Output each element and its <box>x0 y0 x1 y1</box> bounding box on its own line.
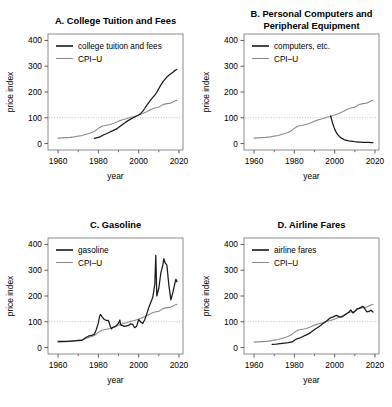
y-tick-label: 300 <box>28 61 42 71</box>
x-tick-label: 1960 <box>49 156 68 166</box>
legend-label: college tuition and fees <box>78 42 162 51</box>
panel-title: C. Gasoline <box>90 220 141 230</box>
y-tick-label: 200 <box>28 87 42 97</box>
x-axis-label: year <box>303 171 320 181</box>
legend-label: CPI–U <box>274 55 298 64</box>
series-line <box>58 304 177 342</box>
y-tick-label: 400 <box>224 35 238 45</box>
panel-title: B. Personal Computers and <box>251 9 373 19</box>
y-tick-label: 400 <box>28 239 42 249</box>
y-tick-label: 0 <box>37 139 42 149</box>
x-tick-label: 2000 <box>325 360 344 370</box>
x-tick-label: 2000 <box>325 156 344 166</box>
y-axis-label: price index <box>201 275 211 316</box>
series-line <box>331 116 373 143</box>
series-line <box>254 304 373 342</box>
legend-label: CPI–U <box>274 259 298 268</box>
series-line <box>58 100 177 138</box>
series-line <box>58 255 177 341</box>
x-tick-label: 1960 <box>245 156 264 166</box>
series-line <box>254 100 373 138</box>
y-tick-label: 300 <box>28 265 42 275</box>
chart-panel-b: B. Personal Computers andPeripheral Equi… <box>196 0 392 203</box>
y-tick-label: 300 <box>224 265 238 275</box>
plot-frame <box>244 34 379 150</box>
x-tick-label: 2020 <box>170 360 189 370</box>
legend-label: CPI–U <box>78 55 102 64</box>
y-tick-label: 400 <box>28 35 42 45</box>
series-line <box>272 306 373 344</box>
y-tick-label: 100 <box>28 113 42 123</box>
y-tick-label: 100 <box>28 317 42 327</box>
x-tick-label: 1980 <box>285 360 304 370</box>
panel-a: A. College Tuition and Fees0100200300400… <box>0 0 196 203</box>
y-tick-label: 0 <box>233 139 238 149</box>
panel-c: C. Gasoline01002003004001960198020002020… <box>0 204 196 407</box>
y-tick-label: 300 <box>224 61 238 71</box>
y-tick-label: 100 <box>224 113 238 123</box>
x-tick-label: 1980 <box>89 360 108 370</box>
legend-label: gasoline <box>78 246 109 255</box>
x-tick-label: 2000 <box>129 156 148 166</box>
legend-label: computers, etc. <box>274 42 330 51</box>
x-tick-label: 2020 <box>366 156 385 166</box>
y-tick-label: 400 <box>224 239 238 249</box>
x-tick-label: 1960 <box>49 360 68 370</box>
panel-title: D. Airline Fares <box>278 220 346 230</box>
y-tick-label: 200 <box>224 291 238 301</box>
x-tick-label: 1980 <box>89 156 108 166</box>
plot-frame <box>48 34 183 150</box>
x-tick-label: 1980 <box>285 156 304 166</box>
y-axis-label: price index <box>5 71 15 112</box>
chart-panel-c: C. Gasoline01002003004001960198020002020… <box>0 204 196 407</box>
x-tick-label: 2020 <box>366 360 385 370</box>
x-tick-label: 2000 <box>129 360 148 370</box>
y-tick-label: 0 <box>37 343 42 353</box>
x-axis-label: year <box>303 375 320 385</box>
panel-title: Peripheral Equipment <box>263 21 359 31</box>
plot-frame <box>244 238 379 354</box>
legend-label: CPI–U <box>78 259 102 268</box>
panel-b: B. Personal Computers andPeripheral Equi… <box>196 0 392 203</box>
y-axis-label: price index <box>201 71 211 112</box>
panel-title: A. College Tuition and Fees <box>55 16 176 26</box>
chart-panel-a: A. College Tuition and Fees0100200300400… <box>0 0 196 203</box>
y-tick-label: 0 <box>233 343 238 353</box>
y-axis-label: price index <box>5 275 15 316</box>
y-tick-label: 200 <box>224 87 238 97</box>
legend-label: airline fares <box>274 246 316 255</box>
chart-panel-d: D. Airline Fares010020030040019601980200… <box>196 204 392 407</box>
x-tick-label: 1960 <box>245 360 264 370</box>
x-axis-label: year <box>107 171 124 181</box>
x-tick-label: 2020 <box>170 156 189 166</box>
y-tick-label: 100 <box>224 317 238 327</box>
panel-d: D. Airline Fares010020030040019601980200… <box>196 204 392 407</box>
x-axis-label: year <box>107 375 124 385</box>
y-tick-label: 200 <box>28 291 42 301</box>
plot-frame <box>48 238 183 354</box>
figure-four-panel-price-index: A. College Tuition and Fees0100200300400… <box>0 0 392 407</box>
